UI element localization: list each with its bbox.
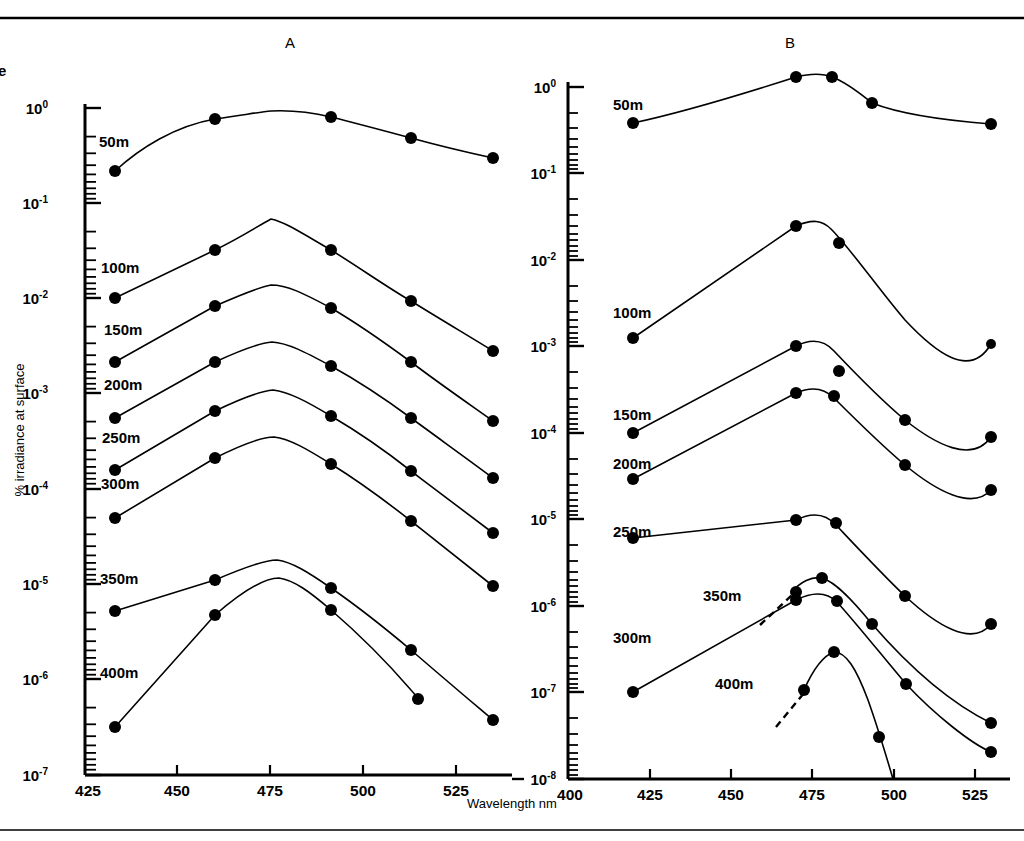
x-tick-label: 475 — [799, 786, 825, 803]
panel-b-data-points — [627, 71, 997, 758]
panel-b-y-tick-labels: 100 10-1 10-2 10-3 10-4 10-5 10-6 10-7 1… — [530, 78, 556, 788]
y-tick-label: 10-2 — [530, 251, 556, 269]
depth-label-200m: 200m — [613, 455, 651, 472]
curve-250m — [633, 515, 991, 634]
panel-a: A — [22, 34, 512, 799]
depth-label-100m: 100m — [101, 259, 139, 276]
outlier-point-150m — [833, 365, 845, 377]
panel-b: B — [512, 34, 1010, 803]
panel-a-title: A — [285, 34, 295, 51]
irradiance-spectra-figure: e Wavelength nm % irradiance at surface … — [0, 0, 1024, 841]
panel-a-y-ticks — [85, 108, 101, 775]
depth-label-100m: 100m — [613, 304, 651, 321]
x-tick-label: 500 — [881, 786, 907, 803]
depth-label-150m: 150m — [613, 406, 651, 423]
x-tick-label: 425 — [637, 786, 663, 803]
depth-label-50m: 50m — [99, 133, 129, 150]
y-tick-label: 10-2 — [22, 289, 48, 307]
y-tick-label: 10-5 — [530, 510, 556, 528]
y-tick-label: 100 — [26, 99, 49, 117]
depth-label-350m: 350m — [703, 587, 741, 604]
curve-400m — [115, 578, 418, 727]
y-tick-label: 10-1 — [22, 194, 48, 212]
outlier-point-100m — [833, 237, 845, 249]
depth-label-50m: 50m — [613, 96, 643, 113]
depth-label-200m: 200m — [104, 376, 142, 393]
y-tick-label: 10-6 — [22, 670, 48, 688]
panel-b-depth-labels: 50m 100m 150m 200m 250m 350m 300m 400m — [613, 96, 753, 692]
depth-label-250m: 250m — [613, 523, 651, 540]
panel-b-x-tick-labels: 400 425 450 475 500 525 — [557, 786, 988, 803]
curve-200m — [115, 342, 493, 478]
y-tick-label: 10-4 — [530, 424, 556, 442]
curve-350m — [792, 578, 991, 723]
y-tick-label: 10-3 — [530, 337, 556, 355]
curve-350m — [115, 560, 493, 720]
curve-300m — [115, 437, 493, 586]
leader-400m — [776, 693, 804, 727]
panel-a-x-tick-labels: 425 450 475 500 525 — [75, 782, 469, 799]
figure-container: e Wavelength nm % irradiance at surface … — [0, 0, 1024, 841]
y-tick-label: 10-3 — [22, 384, 48, 402]
x-tick-label: 525 — [962, 786, 988, 803]
x-tick-label: 450 — [164, 782, 190, 799]
y-tick-label: 10-7 — [530, 683, 556, 701]
panel-b-title: B — [785, 34, 795, 51]
curve-50m — [115, 111, 493, 171]
panel-b-curves — [633, 74, 991, 779]
panel-b-y-ticks — [568, 87, 584, 779]
y-tick-label: 10-4 — [22, 480, 48, 498]
curve-100m — [633, 221, 991, 360]
y-tick-label: 10-8 — [530, 770, 556, 788]
y-tick-label: 100 — [534, 78, 557, 96]
x-tick-label: 525 — [443, 782, 469, 799]
depth-label-150m: 150m — [104, 321, 142, 338]
x-axis-title: Wavelength nm — [467, 796, 557, 811]
x-tick-label: 425 — [75, 782, 101, 799]
x-tick-label: 400 — [557, 786, 583, 803]
y-tick-label: 10-5 — [22, 575, 48, 593]
y-tick-label: 10-6 — [530, 597, 556, 615]
panel-a-data-points — [109, 111, 499, 733]
x-tick-label: 500 — [350, 782, 376, 799]
curve-250m — [115, 390, 493, 533]
depth-label-350m: 350m — [100, 570, 138, 587]
y-axis-title: % irradiance at surface — [12, 364, 27, 497]
x-tick-label: 450 — [718, 786, 744, 803]
depth-label-400m: 400m — [715, 675, 753, 692]
curve-100m — [115, 219, 493, 351]
y-tick-label: 10-7 — [22, 766, 48, 784]
curve-200m — [633, 389, 991, 499]
leader-350m — [760, 595, 792, 625]
curve-50m — [633, 74, 991, 124]
depth-label-300m: 300m — [101, 475, 139, 492]
depth-label-250m: 250m — [102, 429, 140, 446]
panel-a-curves — [115, 111, 493, 727]
curve-150m — [633, 341, 991, 450]
edge-artifact-glyph: e — [0, 62, 6, 79]
curve-400m — [804, 652, 893, 779]
depth-label-300m: 300m — [613, 629, 651, 646]
depth-label-400m: 400m — [100, 664, 138, 681]
x-tick-label: 475 — [257, 782, 283, 799]
y-tick-label: 10-1 — [530, 164, 556, 182]
